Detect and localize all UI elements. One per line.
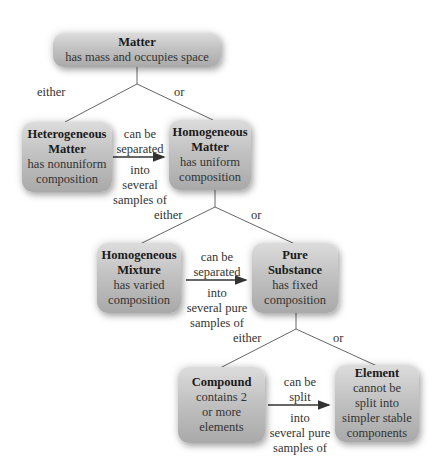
node-desc: cannot be bbox=[353, 381, 401, 396]
node-homogeneous-mixture: Homogeneous Mixture has varied compositi… bbox=[97, 243, 181, 313]
arrow-label-above: can be separated bbox=[112, 127, 168, 157]
node-desc: split into bbox=[355, 396, 399, 411]
node-title: Heterogeneous bbox=[28, 127, 107, 142]
arrow-text: into bbox=[264, 411, 336, 426]
arrow-text: several pure bbox=[181, 301, 253, 316]
node-desc: components bbox=[347, 426, 407, 441]
arrow-label-above: can be split bbox=[268, 375, 332, 405]
branch-label-or: or bbox=[174, 85, 184, 100]
node-desc: elements bbox=[199, 420, 243, 435]
node-desc: composition bbox=[179, 170, 241, 185]
node-heterogeneous-matter: Heterogeneous Matter has nonuniform comp… bbox=[22, 122, 112, 192]
node-title: Mixture bbox=[117, 263, 161, 278]
arrow-text: can be bbox=[112, 127, 168, 142]
node-title: Substance bbox=[268, 263, 322, 278]
node-title: Homogeneous bbox=[102, 248, 177, 263]
node-title: Compound bbox=[192, 375, 252, 390]
node-desc: has mass and occupies space bbox=[65, 50, 209, 65]
node-desc: has nonuniform bbox=[28, 157, 107, 172]
arrow-text: into bbox=[108, 163, 172, 178]
node-desc: has fixed bbox=[272, 278, 317, 293]
branch-label-either: either bbox=[233, 331, 261, 346]
arrow-label-above: can be separated bbox=[185, 250, 249, 280]
branch-label-or: or bbox=[333, 331, 343, 346]
arrow-label-below: into several pure samples of bbox=[181, 286, 253, 331]
arrow-text: can be bbox=[185, 250, 249, 265]
arrow-text: split bbox=[268, 390, 332, 405]
node-title: Matter bbox=[118, 35, 155, 50]
node-desc: contains 2 bbox=[196, 390, 247, 405]
node-matter: Matter has mass and occupies space bbox=[53, 33, 221, 67]
node-desc: composition bbox=[36, 172, 98, 187]
node-desc: composition bbox=[108, 293, 170, 308]
node-desc: simpler stable bbox=[342, 411, 412, 426]
arrow-label-below: into several pure samples of bbox=[264, 411, 336, 456]
node-desc: has varied bbox=[113, 278, 164, 293]
node-desc: has uniform bbox=[180, 155, 240, 170]
arrow-text: several pure bbox=[264, 426, 336, 441]
arrow-text: samples of bbox=[264, 441, 336, 456]
arrow-text: separated bbox=[185, 265, 249, 280]
node-compound: Compound contains 2 or more elements bbox=[178, 367, 265, 443]
arrow-text: can be bbox=[268, 375, 332, 390]
branch-label-either: either bbox=[154, 208, 182, 223]
node-pure-substance: Pure Substance has fixed composition bbox=[252, 243, 338, 313]
node-title: Homogeneous bbox=[173, 125, 248, 140]
node-homogeneous-matter: Homogeneous Matter has uniform compositi… bbox=[169, 120, 251, 190]
node-title: Matter bbox=[48, 142, 85, 157]
node-title: Element bbox=[355, 366, 399, 381]
arrow-text: samples of bbox=[108, 193, 172, 208]
arrow-label-below: into several samples of bbox=[108, 163, 172, 208]
arrow-text: separated bbox=[112, 142, 168, 157]
arrow-text: several bbox=[108, 178, 172, 193]
node-title: Pure bbox=[282, 248, 307, 263]
node-title: Matter bbox=[191, 140, 228, 155]
node-desc: composition bbox=[264, 293, 326, 308]
node-desc: or more bbox=[202, 405, 241, 420]
branch-label-either: either bbox=[37, 85, 65, 100]
arrow-text: into bbox=[181, 286, 253, 301]
node-element: Element cannot be split into simpler sta… bbox=[335, 365, 419, 442]
arrow-text: samples of bbox=[181, 316, 253, 331]
branch-label-or: or bbox=[251, 208, 261, 223]
